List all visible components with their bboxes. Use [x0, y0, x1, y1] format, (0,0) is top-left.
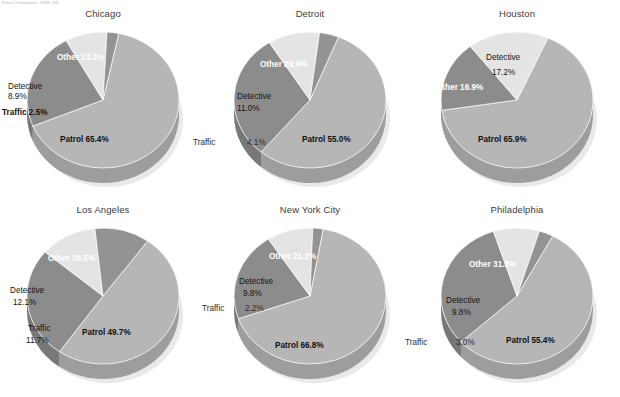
- chart-title: New York City: [207, 204, 413, 215]
- slice-label-other: Other 29.9%: [260, 60, 307, 70]
- slice-label-patrol: Patrol 65.4%: [60, 135, 109, 145]
- pie-chart-los-angeles: Los AngelesOther 26.5%Detective12.1%Traf…: [0, 202, 206, 397]
- slice-label-detective: Detective: [239, 277, 273, 287]
- slice-label-detective: Detective: [446, 296, 480, 306]
- slice-label-detective-value: 11.0%: [237, 104, 260, 114]
- slice-label-traffic: Traffic: [28, 324, 50, 334]
- pie-graphic: Other 23.2%Detective8.9%Traffic 2.5%Patr…: [0, 20, 206, 198]
- pie-chart-grid: ChicagoOther 23.2%Detective8.9%Traffic 2…: [0, 6, 620, 397]
- chart-title: Los Angeles: [0, 204, 206, 215]
- slice-label-detective-value: 12.1%: [13, 298, 36, 308]
- slice-label-patrol: Patrol 49.7%: [82, 328, 131, 338]
- slice-label-other: Other 31.8%: [469, 260, 516, 270]
- slice-label-traffic-value: 11.7%: [26, 336, 49, 346]
- slice-label-patrol: Patrol 65.9%: [478, 135, 527, 145]
- slice-label-detective: Detective: [10, 286, 44, 296]
- slice-label-traffic: Traffic: [202, 304, 224, 314]
- pie-chart-new-york-city: New York CityOther 21.2%Detective9.8%Tra…: [207, 202, 413, 397]
- pie-graphic: Other 21.2%Detective9.8%Traffic2.2%Patro…: [207, 216, 413, 394]
- slice-label-patrol: Patrol 55.4%: [506, 336, 555, 346]
- pie-slices: [27, 228, 179, 364]
- slice-label-traffic: Traffic: [193, 138, 215, 148]
- pie-graphic: Other 31.8%Detective9.8%Traffic3.0%Patro…: [414, 216, 620, 394]
- slice-label-detective: Detective: [237, 92, 271, 102]
- pie-chart-philadelphia: PhiladelphiaOther 31.8%Detective9.8%Traf…: [414, 202, 620, 397]
- slice-label-other: Other 26.5%: [48, 254, 95, 264]
- slice-label-detective-value: 8.9%: [8, 92, 27, 102]
- pie-chart-detroit: DetroitOther 29.9%Detective11.0%Traffic4…: [207, 6, 413, 202]
- pie-graphic: Other 26.5%Detective12.1%Traffic11.7%Pat…: [0, 216, 206, 394]
- chart-title: Detroit: [207, 8, 413, 19]
- slice-label-detective-value: 9.8%: [452, 308, 471, 318]
- slice-label-other: Other 21.2%: [269, 252, 316, 262]
- chart-title: Philadelphia: [414, 204, 620, 215]
- slice-label-traffic-value: 2.2%: [245, 304, 264, 314]
- slice-label-detective: Detective: [8, 82, 42, 92]
- chart-title: Houston: [414, 8, 620, 19]
- chart-title: Chicago: [0, 8, 206, 19]
- slice-label-detective: Detective: [486, 53, 520, 63]
- slice-label-detective-value: 9.8%: [243, 289, 262, 299]
- pie-chart-chicago: ChicagoOther 23.2%Detective8.9%Traffic 2…: [0, 6, 206, 202]
- pie-graphic: Other 16.9%Detective17.2%Patrol 65.9%: [414, 20, 620, 198]
- slice-label-traffic-value: 3.0%: [456, 338, 475, 348]
- slice-label-traffic-value: 4.1%: [247, 138, 266, 148]
- slice-label-patrol: Patrol 55.0%: [302, 135, 351, 145]
- slice-label-detective-value: 17.2%: [492, 68, 515, 78]
- slice-label-other: Other 16.9%: [436, 83, 483, 93]
- pie-graphic: Other 29.9%Detective11.0%Traffic4.1%Patr…: [207, 20, 413, 198]
- slice-label-other: Other 23.2%: [57, 53, 104, 63]
- slice-label-patrol: Patrol 66.8%: [275, 341, 324, 351]
- pie-chart-houston: HoustonOther 16.9%Detective17.2%Patrol 6…: [414, 6, 620, 202]
- slice-label-traffic: Traffic 2.5%: [2, 108, 48, 118]
- slice-label-traffic: Traffic: [405, 338, 427, 348]
